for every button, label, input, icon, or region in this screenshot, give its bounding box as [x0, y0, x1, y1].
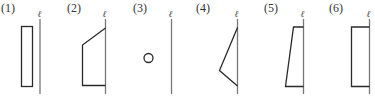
circle-shape — [144, 54, 153, 63]
rectangle-shape — [352, 27, 370, 87]
panel-4: (4) ℓ — [196, 1, 239, 94]
axis-symbol: ℓ — [367, 9, 371, 19]
panel-6-label: (6) — [329, 1, 343, 15]
panel-3-label: (3) — [133, 1, 147, 15]
axis-symbol: ℓ — [301, 9, 305, 19]
panel-1: (1) ℓ — [1, 1, 42, 94]
panel-2: (2) ℓ — [67, 1, 107, 94]
axis-symbol: ℓ — [38, 9, 42, 19]
panel-5-label: (5) — [264, 1, 278, 15]
panel-3: (3) ℓ — [133, 1, 173, 94]
axis-symbol: ℓ — [169, 9, 173, 19]
axis-symbol: ℓ — [235, 9, 239, 19]
axis-symbol: ℓ — [103, 9, 107, 19]
panel-5: (5) ℓ — [264, 1, 305, 94]
trapezoid-shape — [83, 28, 106, 86]
rotation-figures-diagram: (1) ℓ (2) ℓ (3) ℓ (4) ℓ (5) ℓ (6) ℓ — [0, 0, 375, 106]
panel-2-label: (2) — [67, 1, 81, 15]
rectangle-shape — [22, 27, 33, 87]
panel-4-label: (4) — [196, 1, 210, 15]
panel-1-label: (1) — [1, 1, 15, 15]
trapezoid-shape — [286, 27, 304, 87]
panel-6: (6) ℓ — [329, 1, 371, 94]
triangle-shape — [220, 28, 238, 87]
